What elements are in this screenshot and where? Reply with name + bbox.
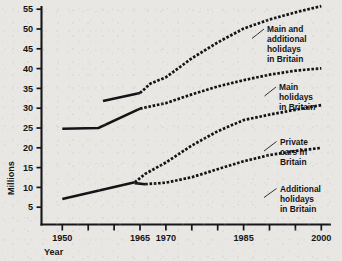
- x-tick-label: 1985: [233, 233, 253, 243]
- annotation-additional-holidays: Additional holidays in Britain: [280, 184, 321, 214]
- annotation-line: holidays: [279, 92, 313, 102]
- annotation-line: holidays: [280, 194, 314, 204]
- y-tick-label: 45: [23, 44, 33, 54]
- annotation-main-holidays: Main holidays in Britain: [279, 82, 315, 112]
- annotation-line: in Britain: [280, 204, 316, 214]
- y-tick-label: 25: [23, 123, 33, 133]
- leader-private-cars: [264, 142, 277, 152]
- annotation-line: holidays: [267, 44, 301, 54]
- y-tick-label: 5: [28, 202, 33, 212]
- x-tick-label: 1950: [52, 233, 72, 243]
- annotation-line: Main: [279, 82, 298, 92]
- leader-main-and-additional: [252, 29, 264, 39]
- annotation-line: Britain: [280, 157, 307, 167]
- y-tick-label: 55: [23, 4, 33, 14]
- y-tick-label: 15: [23, 163, 33, 173]
- x-tick-label: 2000: [311, 233, 331, 243]
- y-tick-label: 20: [23, 143, 33, 153]
- leader-additional-holidays: [264, 189, 277, 198]
- annotation-line: in Britain: [279, 102, 315, 112]
- series-additional-holidays-solid: [135, 183, 145, 184]
- series-main-and-additional-holidays-solid: [103, 93, 140, 101]
- y-tick-label: 50: [23, 24, 33, 34]
- x-tick-label: 1970: [156, 233, 176, 243]
- chart-canvas: 55 50 45 40 35 30 25 20 15 10 5: [0, 0, 342, 261]
- annotation-private-cars: Private cars in Britain: [280, 137, 308, 167]
- y-tick-label: 10: [23, 183, 33, 193]
- annotation-main-and-additional-holidays: Main and additional holidays in Britain: [267, 24, 307, 64]
- y-tick-label: 35: [23, 84, 33, 94]
- annotation-line: Main and: [267, 24, 303, 34]
- x-tick-labels: 1950 1965 1970 1985 2000: [52, 233, 331, 243]
- x-tick-label: 1965: [130, 233, 150, 243]
- line-chart: 55 50 45 40 35 30 25 20 15 10 5: [0, 0, 342, 261]
- annotation-line: in Britain: [267, 54, 303, 64]
- y-axis-title: Millions: [6, 161, 16, 195]
- y-tick-label: 30: [23, 103, 33, 113]
- series-main-holidays-solid: [62, 109, 140, 129]
- x-axis-title: Year: [44, 247, 64, 257]
- y-tick-label: 40: [23, 64, 33, 74]
- y-tick-labels: 55 50 45 40 35 30 25 20 15 10 5: [23, 4, 33, 212]
- annotation-line: Private: [280, 137, 308, 147]
- annotation-line: additional: [267, 34, 307, 44]
- annotation-line: Additional: [280, 184, 321, 194]
- series-private-cars-solid: [62, 182, 135, 199]
- leader-main-holidays: [265, 87, 277, 96]
- annotation-line: cars in: [280, 147, 307, 157]
